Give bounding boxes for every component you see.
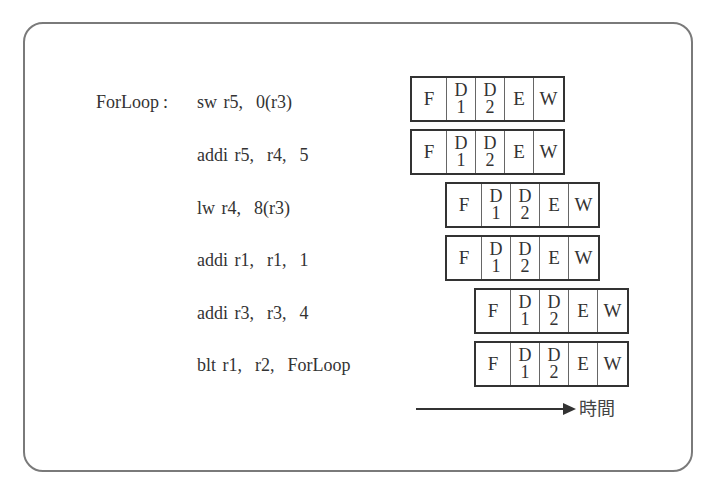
instruction-1: sw r5, 0(r3) xyxy=(197,92,292,112)
stage-execute: E xyxy=(540,184,569,226)
stage-decode-1: D1 xyxy=(447,131,476,173)
pipeline-row-1: F D1 D2 E W xyxy=(410,76,565,122)
stage-decode-2: D2 xyxy=(540,343,569,385)
loop-label-text: ForLoop xyxy=(96,92,159,112)
loop-label-colon: : xyxy=(163,92,168,112)
stage-writeback: W xyxy=(534,131,563,173)
stage-decode-1: D1 xyxy=(511,290,540,332)
stage-d2-bottom: 2 xyxy=(521,258,530,275)
instruction-2: addi r5, r4, 5 xyxy=(197,145,308,165)
stage-decode-1: D1 xyxy=(511,343,540,385)
stage-execute: E xyxy=(569,343,598,385)
stage-execute: E xyxy=(505,78,534,120)
stage-decode-1: D1 xyxy=(447,78,476,120)
stage-writeback: W xyxy=(569,237,598,279)
stage-d2-bottom: 2 xyxy=(486,152,495,169)
stage-d1-bottom: 1 xyxy=(457,99,466,116)
stage-decode-2: D2 xyxy=(476,131,505,173)
stage-d1-bottom: 1 xyxy=(521,311,530,328)
stage-d1-bottom: 1 xyxy=(521,364,530,381)
instruction-3: lw r4, 8(r3) xyxy=(197,198,290,218)
stage-fetch: F xyxy=(412,78,447,120)
stage-fetch: F xyxy=(476,290,511,332)
stage-d1-bottom: 1 xyxy=(492,258,501,275)
stage-writeback: W xyxy=(569,184,598,226)
pipeline-row-3: F D1 D2 E W xyxy=(445,182,600,228)
stage-writeback: W xyxy=(598,290,627,332)
stage-fetch: F xyxy=(447,184,482,226)
instruction-6: blt r1, r2, ForLoop xyxy=(197,355,351,375)
stage-execute: E xyxy=(540,237,569,279)
stage-d2-bottom: 2 xyxy=(550,311,559,328)
pipeline-row-6: F D1 D2 E W xyxy=(474,341,629,387)
pipeline-row-4: F D1 D2 E W xyxy=(445,235,600,281)
time-axis-label: 時間 xyxy=(579,398,615,420)
stage-decode-2: D2 xyxy=(540,290,569,332)
stage-writeback: W xyxy=(534,78,563,120)
stage-d2-bottom: 2 xyxy=(550,364,559,381)
instruction-5: addi r3, r3, 4 xyxy=(197,303,308,323)
stage-d2-bottom: 2 xyxy=(486,99,495,116)
loop-label: ForLoop: xyxy=(96,92,168,112)
stage-fetch: F xyxy=(412,131,447,173)
stage-fetch: F xyxy=(447,237,482,279)
time-axis-line xyxy=(416,408,566,410)
pipeline-row-5: F D1 D2 E W xyxy=(474,288,629,334)
stage-d2-bottom: 2 xyxy=(521,205,530,222)
stage-decode-2: D2 xyxy=(476,78,505,120)
stage-d1-bottom: 1 xyxy=(492,205,501,222)
stage-fetch: F xyxy=(476,343,511,385)
stage-decode-2: D2 xyxy=(511,184,540,226)
stage-decode-1: D1 xyxy=(482,237,511,279)
arrow-right-icon xyxy=(563,403,576,415)
stage-execute: E xyxy=(505,131,534,173)
stage-execute: E xyxy=(569,290,598,332)
stage-d1-bottom: 1 xyxy=(457,152,466,169)
stage-writeback: W xyxy=(598,343,627,385)
instruction-4: addi r1, r1, 1 xyxy=(197,250,308,270)
stage-decode-1: D1 xyxy=(482,184,511,226)
pipeline-row-2: F D1 D2 E W xyxy=(410,129,565,175)
stage-decode-2: D2 xyxy=(511,237,540,279)
